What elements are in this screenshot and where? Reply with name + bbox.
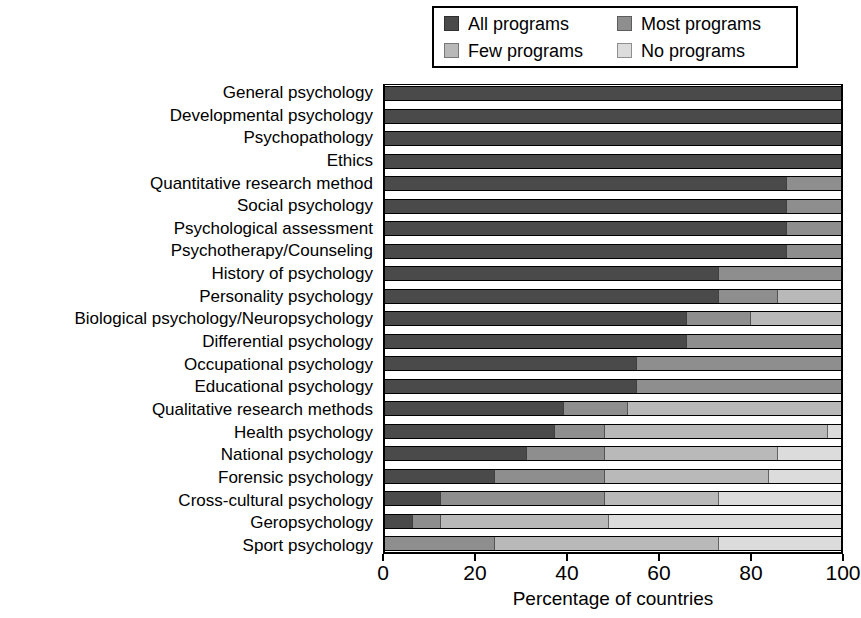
bar-segment <box>385 447 526 460</box>
category-label: History of psychology <box>0 266 379 281</box>
stacked-bar <box>385 289 841 304</box>
bar-segment <box>385 177 786 190</box>
bar-segment <box>750 312 841 325</box>
bar-segment <box>563 402 627 415</box>
bar-segment <box>636 357 841 370</box>
category-label: Cross-cultural psychology <box>0 493 379 508</box>
stacked-bar <box>385 379 841 394</box>
x-axis-tick-label: 20 <box>463 561 486 585</box>
bar-segment <box>526 447 604 460</box>
bar-segment <box>440 492 604 505</box>
legend-item-few-programs: Few programs <box>444 42 617 60</box>
legend-label-no-programs: No programs <box>641 42 745 60</box>
stacked-bar <box>385 199 841 214</box>
legend-label-all-programs: All programs <box>468 15 569 33</box>
bar-segment <box>385 357 636 370</box>
bar-segment <box>385 515 412 528</box>
category-label: Quantitative research method <box>0 176 379 191</box>
legend-item-most-programs: Most programs <box>617 15 790 33</box>
stacked-bar <box>385 401 841 416</box>
bar-segment <box>385 267 718 280</box>
bar-segment <box>385 380 636 393</box>
bar-segment <box>768 470 841 483</box>
category-label: Developmental psychology <box>0 108 379 123</box>
bar-segment <box>718 267 841 280</box>
legend-item-all-programs: All programs <box>444 15 617 33</box>
bar-segment <box>385 245 786 258</box>
bar-segment <box>604 470 768 483</box>
stacked-bar <box>385 311 841 326</box>
x-axis-tick-labels: 020406080100 <box>383 561 843 587</box>
category-label: Occupational psychology <box>0 357 379 372</box>
x-axis-tick-label: 100 <box>825 561 860 585</box>
stacked-bar <box>385 491 841 506</box>
legend-swatch-all-programs <box>444 16 459 31</box>
x-axis-tick <box>750 554 752 561</box>
category-label: Psychotherapy/Counseling <box>0 243 379 258</box>
bar-segment <box>385 222 786 235</box>
bar-segment <box>777 447 841 460</box>
stacked-bar <box>385 221 841 236</box>
category-label: Forensic psychology <box>0 470 379 485</box>
category-label: Qualitative research methods <box>0 402 379 417</box>
bar-segment <box>786 222 841 235</box>
x-axis-tick <box>566 554 568 561</box>
bar-segment <box>686 335 841 348</box>
stacked-bar <box>385 109 841 124</box>
bar-segment <box>385 335 686 348</box>
category-label: Biological psychology/Neuropsychology <box>0 311 379 326</box>
x-axis-tick-label: 60 <box>647 561 670 585</box>
bar-segment <box>385 155 841 168</box>
bar-segment <box>627 402 841 415</box>
category-label: Personality psychology <box>0 289 379 304</box>
stacked-bar-plot-area <box>383 84 843 554</box>
bar-segment <box>604 425 827 438</box>
bar-segment <box>718 492 841 505</box>
stacked-bar <box>385 424 841 439</box>
stacked-bar <box>385 244 841 259</box>
category-label: Geropsychology <box>0 515 379 530</box>
bar-segment <box>385 87 841 100</box>
bar-segment <box>608 515 841 528</box>
category-label: Social psychology <box>0 198 379 213</box>
bar-segment <box>385 312 686 325</box>
legend-label-most-programs: Most programs <box>641 15 761 33</box>
bar-segment <box>385 492 440 505</box>
bar-segment <box>494 470 603 483</box>
bar-segment <box>786 245 841 258</box>
x-axis-title: Percentage of countries <box>383 588 843 610</box>
stacked-bar <box>385 514 841 529</box>
bar-segment <box>385 537 494 550</box>
category-label: Sport psychology <box>0 538 379 553</box>
x-axis-tick <box>658 554 660 561</box>
category-label: Educational psychology <box>0 379 379 394</box>
bar-segment <box>604 447 777 460</box>
category-label: National psychology <box>0 447 379 462</box>
bar-segment <box>554 425 604 438</box>
legend-swatch-most-programs <box>617 16 632 31</box>
bar-segment <box>385 200 786 213</box>
bar-segment <box>827 425 841 438</box>
stacked-bar <box>385 266 841 281</box>
stacked-bar <box>385 469 841 484</box>
x-axis-tick-label: 0 <box>377 561 389 585</box>
category-label: Ethics <box>0 153 379 168</box>
stacked-bar <box>385 154 841 169</box>
legend-swatch-no-programs <box>617 43 632 58</box>
category-label: Differential psychology <box>0 334 379 349</box>
stacked-bar <box>385 334 841 349</box>
bar-segment <box>385 470 494 483</box>
bar-segment <box>440 515 609 528</box>
bar-segment <box>718 537 841 550</box>
x-axis-tick <box>474 554 476 561</box>
category-axis-labels: General psychologyDevelopmental psycholo… <box>0 84 379 554</box>
x-axis-tick <box>842 554 844 561</box>
x-axis-tick <box>382 554 384 561</box>
stacked-bar <box>385 176 841 191</box>
bar-segment <box>636 380 841 393</box>
bar-segment <box>385 132 841 145</box>
legend-swatch-few-programs <box>444 43 459 58</box>
category-label: Psychological assessment <box>0 221 379 236</box>
bar-segment <box>718 290 777 303</box>
chart-legend: All programs Most programs Few programs … <box>432 6 798 68</box>
